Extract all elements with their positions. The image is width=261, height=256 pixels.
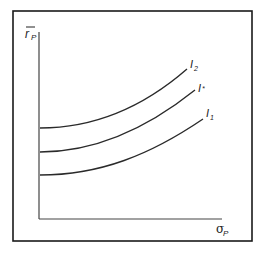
label-i-star: I * (198, 82, 205, 94)
curve-i1 (40, 119, 203, 175)
svg-text:r: r (25, 27, 30, 41)
svg-text:P: P (223, 229, 229, 238)
frame-border (13, 11, 252, 241)
svg-text:I: I (206, 107, 209, 119)
x-axis-label: σ P (216, 222, 229, 238)
svg-text:I: I (198, 82, 201, 94)
svg-text:I: I (190, 58, 193, 70)
indifference-curves-diagram: r P σ P I 2 I * I 1 (0, 0, 261, 256)
curve-i-star (40, 90, 195, 152)
curve-i2 (40, 69, 187, 128)
svg-text:2: 2 (193, 65, 198, 72)
label-i2: I 2 (190, 58, 198, 72)
svg-text:1: 1 (210, 114, 214, 121)
svg-text:P: P (31, 33, 37, 42)
label-i1: I 1 (206, 107, 214, 121)
svg-text:*: * (202, 85, 205, 92)
y-axis-label: r P (25, 27, 37, 42)
